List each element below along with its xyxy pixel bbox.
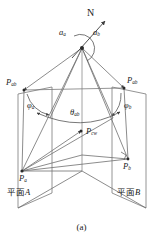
geometry-diagram xyxy=(0,0,163,250)
north-arrow xyxy=(72,21,105,58)
point-pab-right-label: Pab xyxy=(127,76,137,85)
marker-p-b xyxy=(127,158,130,161)
point-pab-right-sub: ab xyxy=(132,79,137,85)
north-label: N xyxy=(87,8,94,18)
point-markers xyxy=(20,87,129,173)
azimuth-b-label: ab xyxy=(93,28,100,37)
azimuth-angle-arc xyxy=(74,34,95,61)
point-pcw-sub: cw xyxy=(91,130,97,136)
plane-a-suffix: A xyxy=(25,187,30,197)
point-pa-label: Pa xyxy=(19,174,27,183)
theta-ab-label: θab xyxy=(70,108,79,117)
plane-b-text: 平面 xyxy=(117,187,135,197)
phi-b-sub: b xyxy=(129,104,132,110)
point-pab-left-label: Pab xyxy=(6,78,16,87)
top-cross-edge xyxy=(24,88,124,90)
point-pa-sub: a xyxy=(24,177,27,183)
phi-a-sub: a xyxy=(32,104,35,110)
marker-p-ab-left xyxy=(23,89,26,92)
p-ab-right-to-pb xyxy=(124,88,128,159)
plane-b-label: 平面B xyxy=(117,188,140,197)
point-pb-sub: b xyxy=(128,165,131,171)
phi-a-label: φa xyxy=(27,101,34,110)
phi-b-label: φb xyxy=(124,101,131,110)
point-pb-label: Pb xyxy=(123,162,131,171)
theta-ab-sub: ab xyxy=(74,111,79,117)
plane-b-suffix: B xyxy=(135,187,140,197)
point-pcw-label: Pcw xyxy=(86,127,97,136)
azimuth-a-sub: a xyxy=(63,31,66,37)
azimuth-b-sub: b xyxy=(97,31,100,37)
marker-p-ab-right xyxy=(123,87,126,90)
plane-a-text: 平面 xyxy=(7,187,25,197)
plane-a-label: 平面A xyxy=(7,188,30,197)
marker-p-cw xyxy=(80,130,83,133)
azimuth-a-label: aa xyxy=(59,28,66,37)
point-pab-left-sub: ab xyxy=(11,81,16,87)
apex-node xyxy=(80,46,84,50)
figure-container: N aa ab Pab Pab φa φb θab Pcw Pa Pb 平面A … xyxy=(0,0,163,250)
figure-caption: (a) xyxy=(0,222,163,232)
